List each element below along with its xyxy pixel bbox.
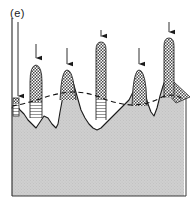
surface-profile-diagram <box>0 0 196 212</box>
deposit-column-1 <box>13 98 19 118</box>
deposit-column-2 <box>28 60 46 124</box>
deposit-column-6 <box>162 34 176 100</box>
figure-panel-e: (e) <box>0 0 196 212</box>
deposit-column-4 <box>94 38 108 123</box>
deposit-column-3 <box>58 64 78 104</box>
